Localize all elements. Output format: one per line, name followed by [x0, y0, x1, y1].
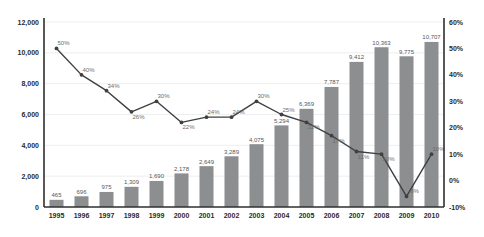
bar-value-label: 2,649 — [199, 159, 215, 165]
y-axis-right-tick: 60% — [449, 19, 464, 26]
trend-value-label: 40% — [82, 67, 95, 73]
bar-value-label: 465 — [51, 192, 62, 198]
bar — [50, 200, 64, 207]
trend-point — [55, 47, 59, 51]
bar-value-label: 696 — [76, 189, 87, 195]
x-axis-tick: 2008 — [374, 212, 390, 219]
y-axis-left-tick: 0 — [35, 204, 39, 211]
trend-value-label: 22% — [307, 124, 320, 130]
x-axis-tick: 2009 — [399, 212, 415, 219]
bar-value-label: 975 — [101, 184, 112, 190]
x-axis-tick: 1998 — [124, 212, 140, 219]
x-axis-tick: 2005 — [299, 212, 315, 219]
bar-value-label: 6,369 — [299, 101, 315, 107]
bar — [225, 156, 239, 207]
trend-point — [405, 195, 409, 199]
x-axis-tick: 2002 — [224, 212, 240, 219]
bar — [375, 47, 389, 207]
bar-value-label: 3,289 — [224, 149, 240, 155]
trend-value-label: 26% — [132, 114, 145, 120]
trend-value-label: 22% — [182, 124, 195, 130]
bar-value-label: 10,363 — [372, 40, 391, 46]
bar-value-label: 1,309 — [124, 179, 140, 185]
x-axis-tick: 2006 — [324, 212, 340, 219]
trend-point — [230, 115, 234, 119]
trend-value-label: 24% — [232, 109, 245, 115]
x-axis-tick: 1999 — [149, 212, 165, 219]
bar — [250, 144, 264, 207]
y-axis-left-tick: 12,000 — [18, 19, 40, 27]
y-axis-right-tick: 10% — [449, 151, 464, 158]
bar — [75, 196, 89, 207]
trend-value-label: 50% — [57, 40, 70, 46]
bar — [275, 125, 289, 207]
trend-point — [255, 99, 259, 103]
trend-value-label: 34% — [107, 83, 120, 89]
y-axis-right-tick: 40% — [449, 71, 464, 78]
trend-value-label: 17% — [332, 138, 345, 144]
trend-value-label: 25% — [282, 107, 295, 113]
x-axis-tick: 2000 — [174, 212, 190, 219]
trend-point — [80, 73, 84, 77]
y-axis-left-tick: 2,000 — [21, 173, 39, 181]
trend-value-label: 11% — [358, 154, 370, 160]
bar-value-label: 2,178 — [174, 166, 190, 172]
bar-value-label: 4,075 — [249, 137, 265, 143]
bar — [100, 192, 114, 207]
trend-value-label: 30% — [157, 93, 170, 99]
bar — [400, 56, 414, 207]
bar — [175, 173, 189, 207]
y-axis-right-tick: 30% — [449, 98, 464, 105]
y-axis-left-tick: 10,000 — [18, 49, 40, 57]
y-axis-left-tick: 4,000 — [21, 142, 39, 150]
y-axis-right-tick: 20% — [449, 124, 464, 131]
combo-chart: 4656969751,3091,6902,1782,6493,2894,0755… — [0, 0, 484, 237]
y-axis-right-tick: 50% — [449, 45, 464, 52]
bar — [350, 62, 364, 207]
trend-point — [205, 115, 209, 119]
bar — [325, 87, 339, 207]
trend-value-label: 30% — [257, 93, 270, 99]
y-axis-left-tick: 8,000 — [21, 80, 39, 88]
trend-point — [155, 99, 159, 103]
trend-point — [105, 89, 109, 93]
bar — [125, 187, 139, 207]
bar-value-label: 1,690 — [149, 173, 165, 179]
bar-value-label: 10,707 — [422, 34, 441, 40]
bar-value-label: 7,787 — [324, 79, 340, 85]
bar-value-label: 9,412 — [349, 54, 365, 60]
chart-container: 4656969751,3091,6902,1782,6493,2894,0755… — [0, 0, 484, 237]
bar — [150, 181, 164, 207]
x-axis-tick: 1997 — [99, 212, 115, 219]
x-axis-tick: 2001 — [199, 212, 215, 219]
trend-point — [280, 113, 284, 117]
bar — [425, 42, 439, 207]
x-axis-tick: 2004 — [274, 212, 290, 219]
x-axis-tick: 2010 — [424, 212, 440, 219]
x-axis-tick: 1996 — [74, 212, 90, 219]
bar-value-label: 5,294 — [274, 118, 290, 124]
bar-value-label: 9,775 — [399, 49, 415, 55]
y-axis-right-tick: 0% — [449, 177, 460, 184]
trend-value-label: 24% — [207, 109, 220, 115]
x-axis-tick: 1995 — [49, 212, 65, 219]
x-axis-tick: 2003 — [249, 212, 265, 219]
trend-point — [430, 152, 434, 156]
y-axis-left-tick: 6,000 — [21, 111, 39, 119]
bar — [200, 166, 214, 207]
trend-value-label: -6% — [408, 188, 419, 194]
x-axis-tick: 2007 — [349, 212, 365, 219]
trend-value-label: 10% — [382, 156, 395, 162]
y-axis-right-tick: -10% — [449, 204, 466, 211]
